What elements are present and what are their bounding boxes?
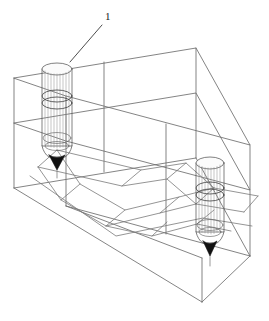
probe-left-tip	[49, 155, 65, 170]
callout-leader	[70, 25, 102, 62]
probe-right-tip	[203, 241, 217, 256]
block-edge-lower-front-left	[14, 188, 202, 302]
block-edge-lower-front-right	[202, 256, 250, 302]
technical-figure: 1	[0, 0, 269, 321]
block-edge-bottom-right-upper	[196, 158, 250, 256]
isometric-drawing-canvas	[0, 0, 269, 321]
fold-mesh-4	[244, 196, 258, 212]
probe-left-mesh	[45, 71, 69, 148]
block-top-face	[14, 48, 250, 145]
callout-1-label: 1	[105, 11, 111, 22]
callout-1-leader-line	[70, 25, 102, 62]
cone-penetration-probe-right	[196, 157, 224, 266]
block-mid-plane	[14, 93, 250, 190]
probe-left-top-cap	[42, 63, 72, 75]
ground-block-wireframe	[14, 48, 250, 302]
fold-ridge-upper-back	[57, 150, 258, 196]
fold-mesh-1	[61, 184, 80, 200]
probe-right-mesh	[199, 165, 220, 234]
cone-penetration-probe-left	[42, 63, 72, 178]
probe-right-shoulder	[196, 232, 224, 243]
